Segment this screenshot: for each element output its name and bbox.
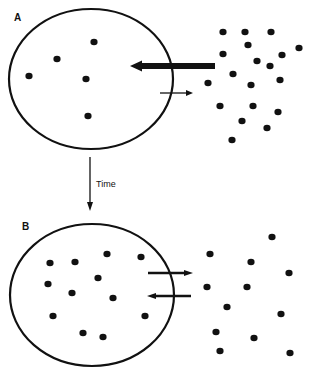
particle-outside: [266, 63, 273, 69]
particle-outside: [212, 329, 219, 335]
particle-inside: [84, 113, 91, 119]
particle-outside: [277, 311, 284, 317]
particle-outside: [278, 52, 285, 58]
cell-membrane-b: [10, 224, 174, 366]
time-label: Time: [96, 179, 116, 189]
particle-inside: [103, 251, 110, 257]
influx-arrow-head-icon: [130, 61, 142, 72]
panel-a: A: [9, 9, 303, 149]
influx-arrow-head-icon: [147, 293, 156, 299]
particle-outside: [250, 335, 257, 341]
particle-outside: [241, 29, 248, 35]
particles-inside-a: [25, 39, 97, 119]
particle-inside: [99, 334, 106, 340]
particle-inside: [137, 254, 144, 260]
particles-outside-a: [204, 29, 302, 143]
particle-outside: [247, 259, 254, 265]
particle-inside: [71, 259, 78, 265]
particle-inside: [46, 260, 53, 266]
particle-outside: [263, 125, 270, 131]
panel-b: B: [10, 221, 294, 366]
particle-outside: [229, 71, 236, 77]
particle-outside: [244, 42, 251, 48]
particles-outside-b: [203, 234, 293, 356]
diffusion-diagram: A Time B: [0, 0, 310, 372]
particle-outside: [228, 137, 235, 143]
particle-outside: [216, 348, 223, 354]
particle-outside: [219, 29, 226, 35]
efflux-arrow-head-icon: [186, 90, 193, 96]
particle-outside: [243, 284, 250, 290]
particle-outside: [285, 270, 292, 276]
particle-outside: [268, 234, 275, 240]
particle-outside: [216, 103, 223, 109]
particle-inside: [25, 73, 32, 79]
particle-outside: [206, 251, 213, 257]
particle-inside: [68, 290, 75, 296]
particle-outside: [219, 51, 226, 57]
particle-outside: [295, 45, 302, 51]
particle-inside: [79, 330, 86, 336]
particle-outside: [203, 284, 210, 290]
particle-inside: [49, 313, 56, 319]
particle-outside: [276, 77, 283, 83]
particle-inside: [82, 76, 89, 82]
panel-label-a: A: [14, 12, 21, 23]
particle-outside: [223, 304, 230, 310]
particle-outside: [253, 58, 260, 64]
particle-outside: [247, 82, 254, 88]
time-arrow-head-icon: [87, 202, 93, 211]
particle-inside: [109, 295, 116, 301]
particle-inside: [141, 313, 148, 319]
particle-inside: [90, 39, 97, 45]
particle-inside: [44, 281, 51, 287]
particles-inside-b: [44, 251, 148, 340]
particle-inside: [53, 56, 60, 62]
panel-label-b: B: [22, 221, 29, 232]
particle-inside: [94, 275, 101, 281]
particle-outside: [204, 80, 211, 86]
cell-membrane-a: [9, 9, 173, 149]
particle-outside: [249, 103, 256, 109]
time-arrow-group: Time: [87, 157, 116, 211]
particle-outside: [286, 350, 293, 356]
particle-outside: [238, 118, 245, 124]
particle-outside: [274, 109, 281, 115]
efflux-arrow-head-icon: [184, 270, 193, 276]
particle-outside: [267, 29, 274, 35]
